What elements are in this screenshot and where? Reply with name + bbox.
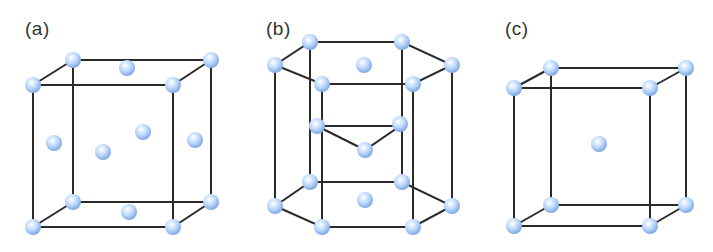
panel-c-label: (c) bbox=[505, 18, 529, 40]
panel-a-label: (a) bbox=[25, 18, 50, 40]
panel-b-label: (b) bbox=[266, 18, 291, 40]
panel-c-atoms bbox=[506, 60, 694, 234]
panel-b-atoms bbox=[267, 34, 460, 235]
panel-a-atoms bbox=[25, 52, 219, 235]
crystal-structures-figure bbox=[0, 0, 713, 252]
